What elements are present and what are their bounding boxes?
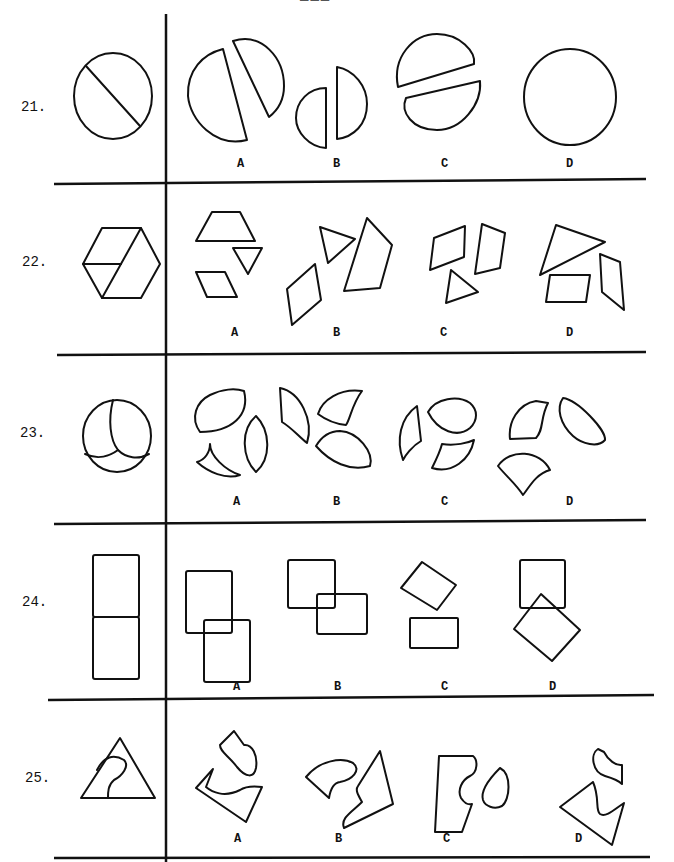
q22-option-c-figure: [430, 224, 505, 303]
q23-option-a-label[interactable]: A: [233, 495, 240, 509]
q24-option-b-label[interactable]: B: [334, 680, 341, 694]
q23-option-c-figure: [400, 399, 476, 470]
q22-option-a-label[interactable]: A: [231, 326, 238, 340]
q22-target-figure: [83, 228, 160, 298]
q25-option-b-figure: [306, 751, 393, 828]
question-number-23: 23.: [20, 425, 45, 441]
row-divider-3: [54, 520, 646, 524]
q21-option-d-label[interactable]: D: [566, 157, 573, 171]
question-number-25: 25.: [25, 770, 50, 786]
q21-option-a-label[interactable]: A: [237, 157, 244, 171]
row-divider-1: [54, 179, 646, 184]
q21-option-a-figure: [188, 39, 284, 141]
q25-option-c-label[interactable]: C: [443, 832, 450, 846]
q24-option-c-label[interactable]: C: [441, 680, 448, 694]
q21-option-b-figure: [296, 67, 367, 148]
q21-target-figure: [74, 53, 152, 139]
q22-option-b-label[interactable]: B: [333, 326, 340, 340]
q25-option-a-figure: [196, 731, 262, 822]
q23-option-b-label[interactable]: B: [333, 495, 340, 509]
q21-option-c-label[interactable]: C: [441, 157, 448, 171]
q23-target-figure: [83, 400, 151, 472]
q21-option-b-label[interactable]: B: [333, 157, 340, 171]
q23-option-d-figure: [498, 398, 605, 495]
question-number-24: 24.: [22, 594, 47, 610]
q24-option-d-label[interactable]: D: [549, 680, 556, 694]
q25-option-a-label[interactable]: A: [234, 832, 241, 846]
q24-option-c-figure: [401, 562, 458, 648]
row-divider-2: [57, 352, 646, 355]
q23-option-d-label[interactable]: D: [566, 495, 573, 509]
row-divider-4: [48, 695, 654, 700]
figure-grid: [0, 0, 674, 862]
q24-option-a-label[interactable]: A: [233, 680, 240, 694]
q25-option-b-label[interactable]: B: [335, 832, 342, 846]
q25-option-d-label[interactable]: D: [575, 832, 582, 846]
q21-option-c-figure: [397, 34, 480, 130]
row-divider-5: [54, 857, 650, 858]
q23-option-c-label[interactable]: C: [441, 495, 448, 509]
q24-target-figure: [93, 555, 139, 679]
q25-option-c-figure: [435, 756, 509, 832]
q22-option-d-label[interactable]: D: [566, 326, 573, 340]
q21-option-d-figure: [524, 49, 616, 145]
q24-option-d-figure: [514, 560, 580, 661]
q22-option-d-figure: [540, 225, 624, 310]
q22-option-c-label[interactable]: C: [440, 326, 447, 340]
test-page: ———: [0, 0, 674, 862]
q24-option-a-figure: [186, 571, 250, 682]
question-number-22: 22.: [22, 254, 47, 270]
q25-option-d-figure: [560, 749, 624, 845]
question-number-21: 21.: [21, 99, 46, 115]
q22-option-b-figure: [287, 218, 392, 325]
q23-option-b-figure: [280, 388, 371, 468]
q23-option-a-figure: [195, 389, 267, 476]
q25-target-figure: [81, 738, 155, 798]
q22-option-a-figure: [196, 212, 262, 297]
q24-option-b-figure: [288, 560, 367, 634]
